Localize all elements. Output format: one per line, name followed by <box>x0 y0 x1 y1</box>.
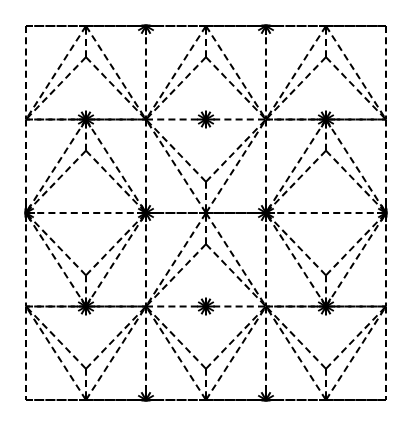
asanoha-pattern-figure <box>0 0 409 425</box>
